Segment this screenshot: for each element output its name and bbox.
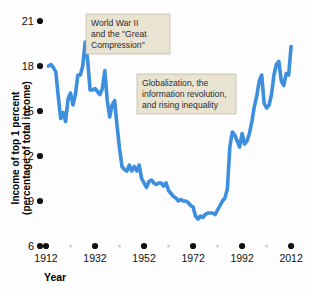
x-minor-tick-dot: [265, 245, 268, 248]
line-chart: Income of top 1 percent (percentage of t…: [0, 0, 310, 294]
y-tick-label: 21: [22, 15, 34, 27]
x-tick-label: 1912: [34, 252, 58, 264]
x-tick-dot: [239, 243, 245, 249]
x-minor-tick-dot: [118, 245, 121, 248]
y-tick-label: 12: [22, 150, 34, 162]
annotation-line: and rising inequality: [142, 100, 219, 110]
x-tick-dot: [288, 243, 294, 249]
y-tick-dot: [37, 63, 43, 69]
x-tick-label: 1952: [132, 252, 156, 264]
y-tick-label: 15: [22, 105, 34, 117]
y-tick-dot: [37, 243, 43, 249]
y-tick-dot: [37, 198, 43, 204]
x-tick-dot: [43, 243, 49, 249]
x-tick-label: 1932: [83, 252, 107, 264]
y-tick-dot: [37, 18, 43, 24]
y-tick-label: 18: [22, 60, 34, 72]
chart-figure: Income of top 1 percent (percentage of t…: [0, 0, 310, 294]
y-tick-label: 6: [28, 240, 34, 252]
x-axis-minor-ticks: [69, 245, 268, 248]
y-tick-label: 9: [28, 195, 34, 207]
x-tick-label: 1992: [230, 252, 254, 264]
annotation-line: World War II: [91, 18, 138, 28]
annotation-line: Globalization, the: [142, 78, 209, 88]
x-tick-dot: [92, 243, 98, 249]
data-line-top-1-percent: [48, 42, 291, 219]
x-minor-tick-dot: [69, 245, 72, 248]
annotation-line: and the "Great: [91, 29, 147, 39]
x-tick-label: 2012: [279, 252, 303, 264]
x-tick-dot: [190, 243, 196, 249]
x-tick-dot: [141, 243, 147, 249]
x-minor-tick-dot: [216, 245, 219, 248]
y-tick-dot: [37, 108, 43, 114]
y-tick-dot: [37, 153, 43, 159]
y-axis-title-line1: Income of top 1 percent: [10, 91, 21, 204]
globalization-annotation: Globalization, theinformation revolution…: [137, 74, 236, 114]
annotation-line: information revolution,: [142, 89, 227, 99]
x-tick-label: 1972: [181, 252, 205, 264]
x-minor-tick-dot: [167, 245, 170, 248]
annotation-line: Compression": [91, 40, 145, 50]
ww2-annotation: World War IIand the "GreatCompression": [86, 14, 170, 54]
x-axis-title: Year: [44, 271, 66, 283]
